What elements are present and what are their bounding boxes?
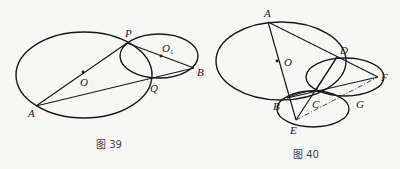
figure-39: P O1 O B Q A 图 39 — [16, 27, 204, 150]
label-g: G — [356, 98, 364, 110]
label-p: P — [124, 27, 132, 39]
label-b: B — [197, 66, 204, 78]
figure-caption-40: 图 40 — [293, 149, 319, 160]
center-o-point — [276, 60, 279, 63]
label-b: B — [273, 100, 280, 112]
label-d: D — [339, 44, 348, 56]
circle-o1 — [120, 34, 198, 78]
segment-ap — [36, 43, 127, 106]
label-q: Q — [150, 82, 158, 94]
figure-40: A O D F B C G E 图 40 — [216, 7, 388, 160]
center-o1-point — [160, 55, 163, 58]
geometry-diagram: P O1 O B Q A 图 39 A O D F B C G E 图 40 — [0, 0, 400, 169]
label-e: E — [289, 124, 297, 136]
figure-caption-39: 图 39 — [96, 139, 122, 150]
label-o: O — [80, 76, 88, 88]
label-a: A — [27, 107, 35, 119]
label-f: F — [380, 71, 388, 83]
center-o-point — [82, 71, 85, 74]
segment-ab — [36, 68, 194, 106]
segment-af — [268, 22, 378, 77]
label-o1: O1 — [162, 42, 174, 56]
label-o: O — [284, 56, 292, 68]
label-c: C — [312, 98, 320, 110]
segment-cd — [316, 57, 337, 90]
label-a: A — [263, 7, 271, 19]
